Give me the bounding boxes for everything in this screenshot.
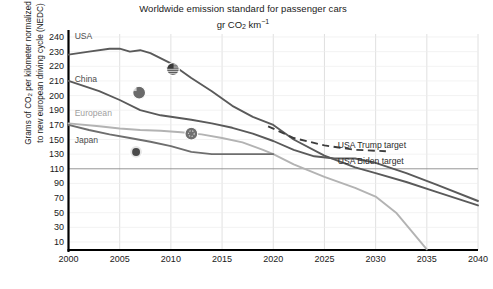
series-label-japan: Japan — [75, 135, 98, 145]
series-label-usa: USA — [75, 31, 93, 41]
annotation-usa-biden-target: USA Biden target — [338, 156, 404, 166]
series-label-european: European — [75, 108, 112, 118]
series-label-china: China — [75, 74, 97, 84]
annotation-usa-trump-target: USA Trump target — [338, 140, 406, 150]
